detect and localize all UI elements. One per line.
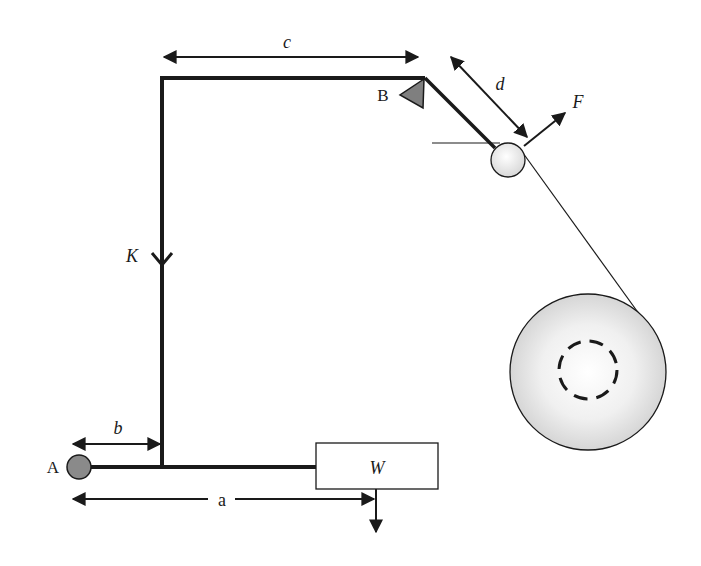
label-a: a bbox=[218, 490, 226, 510]
force-F: F bbox=[524, 92, 585, 146]
label-d: d bbox=[496, 74, 506, 94]
dimension-c: c bbox=[164, 32, 418, 57]
label-b: b bbox=[114, 418, 123, 438]
frame-arms bbox=[162, 78, 425, 466]
weight-W: W bbox=[316, 443, 438, 532]
roller bbox=[491, 143, 525, 177]
reel bbox=[510, 294, 666, 450]
dimension-a: a bbox=[73, 490, 374, 510]
label-W: W bbox=[370, 458, 387, 478]
label-c: c bbox=[283, 32, 291, 52]
web-line bbox=[523, 153, 642, 318]
diagram-canvas: c K B d F b A bbox=[0, 0, 701, 566]
label-K: K bbox=[125, 246, 139, 266]
dimension-b: b bbox=[73, 418, 160, 444]
pivot-B: B bbox=[377, 79, 424, 108]
label-F: F bbox=[572, 92, 585, 112]
label-B: B bbox=[377, 86, 388, 105]
label-A: A bbox=[47, 458, 60, 477]
pivot-A: A bbox=[47, 455, 91, 479]
dancer-arm bbox=[425, 78, 495, 148]
lever-diagram: c K B d F b A bbox=[0, 0, 701, 566]
dimension-d: d bbox=[451, 57, 527, 137]
link-K: K bbox=[125, 246, 172, 266]
triangle-icon bbox=[400, 79, 424, 108]
pivot-circle-icon bbox=[67, 455, 91, 479]
